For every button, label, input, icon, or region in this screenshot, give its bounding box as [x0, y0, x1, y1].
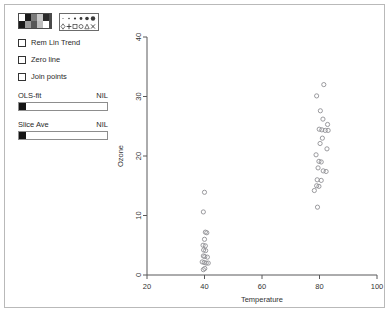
window-frame: Rem Lin TrendZero lineJoin points OLS-fi…: [4, 4, 385, 308]
data-point-27: [320, 136, 324, 140]
data-points-group: [200, 83, 330, 272]
x-axis-title: Temperature: [241, 295, 283, 304]
palette-row: [18, 13, 114, 31]
x-tick-label-60: 60: [258, 282, 266, 291]
slider-label-ols-fit: OLS-fit: [18, 91, 41, 100]
data-point-4: [202, 237, 206, 241]
data-point-18: [322, 83, 326, 87]
y-tick-label-30: 30: [134, 92, 143, 100]
x-tick-label-20: 20: [143, 282, 151, 291]
symbol-dot-6-icon[interactable]: [90, 14, 96, 22]
checkbox-row-join-points[interactable]: Join points: [18, 71, 114, 82]
data-point-0: [202, 190, 206, 194]
slider-block-ols-fit: OLS-fitNIL: [18, 91, 114, 111]
color-palette[interactable]: [18, 13, 52, 29]
color-swatch-0-4[interactable]: [43, 14, 49, 21]
data-point-21: [321, 117, 325, 121]
slider-label-slice-ave: Slice Ave: [18, 120, 49, 129]
data-point-19: [315, 94, 319, 98]
slider-header-slice-ave: Slice AveNIL: [18, 120, 108, 129]
x-tick-label-80: 80: [315, 282, 323, 291]
slider-track-slice-ave[interactable]: [18, 131, 108, 140]
data-point-20: [318, 109, 322, 113]
data-point-37: [319, 178, 323, 182]
data-point-35: [324, 169, 328, 173]
y-tick-label-0: 0: [134, 273, 143, 277]
data-point-29: [325, 147, 329, 151]
checkbox-join-points[interactable]: [18, 73, 26, 81]
slider-list: OLS-fitNILSlice AveNIL: [18, 91, 114, 140]
data-point-1: [201, 210, 205, 214]
checkbox-zero-line[interactable]: [18, 56, 26, 64]
plot-window: Rem Lin TrendZero lineJoin points OLS-fi…: [0, 0, 389, 312]
plot-svg: 01020304020406080100 Ozone Temperature: [105, 25, 385, 305]
data-point-22: [325, 122, 329, 126]
data-point-30: [314, 153, 318, 157]
slider-track-ols-fit[interactable]: [18, 102, 108, 111]
data-point-11: [205, 255, 209, 259]
slider-thumb-slice-ave[interactable]: [19, 132, 26, 139]
x-tick-label-40: 40: [200, 282, 208, 291]
checkbox-list: Rem Lin TrendZero lineJoin points: [18, 37, 114, 82]
data-point-40: [312, 188, 316, 192]
checkbox-row-rem-lin-trend[interactable]: Rem Lin Trend: [18, 37, 114, 48]
y-tick-label-10: 10: [134, 211, 143, 219]
color-swatch-1-4[interactable]: [43, 21, 49, 28]
data-point-33: [316, 166, 320, 170]
checkbox-label-zero-line: Zero line: [31, 55, 60, 64]
checkbox-label-join-points: Join points: [31, 72, 67, 81]
x-tick-label-100: 100: [371, 282, 384, 291]
slider-block-slice-ave: Slice AveNIL: [18, 120, 114, 140]
y-tick-label-40: 40: [134, 33, 143, 41]
symbol-palette[interactable]: [59, 13, 99, 31]
checkbox-label-rem-lin-trend: Rem Lin Trend: [31, 38, 80, 47]
data-point-26: [326, 128, 330, 132]
data-point-36: [315, 178, 319, 182]
symbol-cross-icon[interactable]: [90, 22, 96, 30]
y-tick-label-20: 20: [134, 152, 143, 160]
checkbox-rem-lin-trend[interactable]: [18, 39, 26, 47]
axes-group: 01020304020406080100: [134, 33, 383, 291]
data-point-41: [315, 205, 319, 209]
slider-thumb-ols-fit[interactable]: [19, 103, 26, 110]
slider-header-ols-fit: OLS-fitNIL: [18, 91, 108, 100]
scatter-plot[interactable]: 01020304020406080100 Ozone Temperature: [105, 25, 385, 305]
data-point-28: [318, 141, 322, 145]
checkbox-row-zero-line[interactable]: Zero line: [18, 54, 114, 65]
control-panel: Rem Lin TrendZero lineJoin points OLS-fi…: [18, 13, 114, 140]
y-axis-title: Ozone: [116, 145, 125, 167]
